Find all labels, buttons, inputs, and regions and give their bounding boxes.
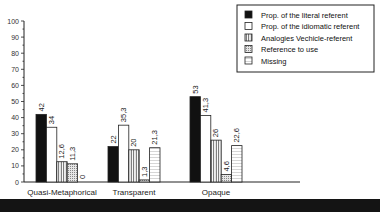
y-tick-label: 90 [11, 34, 19, 41]
y-tick-label: 30 [11, 130, 19, 137]
y-tick-label: 100 [7, 18, 19, 25]
legend-label: Reference to use [261, 45, 318, 54]
bar-dotted [139, 180, 149, 182]
legend-label: Prop. of the literal referent [261, 11, 349, 20]
bar-solid-black [36, 114, 46, 182]
category-label: Quasi-Metaphorical [27, 188, 97, 197]
legend-swatch-dotted [245, 46, 252, 53]
bar-chart: 0102030405060708090100 423412,611,302235… [0, 0, 380, 212]
legend-swatch-white [245, 23, 252, 30]
y-tick-label: 70 [11, 66, 19, 73]
value-label: 11,3 [68, 147, 77, 161]
category-labels: Quasi-MetaphoricalTransparentOpaque [27, 188, 230, 197]
value-label: 4,6 [222, 161, 231, 171]
bar-vertical-lines [57, 162, 67, 182]
bar-vertical-lines [129, 150, 139, 182]
value-label: 1,3 [140, 166, 149, 176]
y-tick-label: 40 [11, 114, 19, 121]
bar-solid-black [190, 97, 200, 182]
bar-white [200, 116, 210, 182]
bar-dotted [221, 175, 231, 182]
value-label: 53 [191, 85, 200, 93]
y-tick-label: 50 [11, 98, 19, 105]
value-label: 41,3 [201, 98, 210, 113]
value-label: 26 [212, 129, 221, 137]
bar-white [46, 127, 56, 182]
legend-swatch-horizontal-lines [245, 57, 252, 64]
value-label: 35,3 [119, 108, 128, 123]
value-label: 22 [109, 135, 118, 143]
legend-label: Prop. of the idiomatic referent [261, 22, 360, 31]
legend-label: Missing [261, 57, 286, 66]
value-label: 21,3 [150, 130, 159, 145]
value-label: 12,6 [58, 144, 67, 159]
bar-vertical-lines [211, 140, 221, 182]
value-label: 20 [130, 138, 139, 146]
bar-solid-black [108, 147, 118, 182]
category-label: Transparent [113, 188, 157, 197]
y-tick-label: 80 [11, 50, 19, 57]
bar-dotted [67, 164, 77, 182]
value-label: 34 [47, 116, 56, 124]
value-label: 22,6 [232, 128, 241, 143]
legend-swatch-solid-black [245, 11, 252, 18]
y-tick-label: 20 [11, 146, 19, 153]
y-tick-label: 60 [11, 82, 19, 89]
value-label: 42 [37, 103, 46, 111]
legend-label: Analogies Vechicle-referent [261, 34, 353, 43]
bar-horizontal-lines [232, 146, 242, 182]
bar-white [118, 125, 128, 182]
legend: Prop. of the literal referentProp. of th… [237, 5, 374, 72]
bottom-band [0, 199, 380, 212]
bar-horizontal-lines [150, 148, 160, 182]
legend-swatch-vertical-lines [245, 34, 252, 41]
value-label: 0 [78, 175, 87, 179]
category-label: Opaque [202, 188, 231, 197]
y-tick-label: 10 [11, 162, 19, 169]
y-tick-label: 0 [15, 179, 19, 186]
